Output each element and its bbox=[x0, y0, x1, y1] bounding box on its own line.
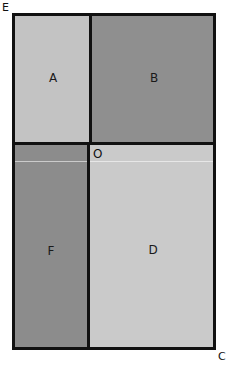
scan-artifact-line bbox=[15, 161, 213, 162]
region-a-label: A bbox=[49, 71, 57, 85]
corner-label-e: E bbox=[2, 1, 9, 14]
region-b: B bbox=[90, 16, 213, 144]
region-b-label: B bbox=[150, 71, 158, 85]
center-label-o: O bbox=[93, 147, 102, 161]
region-d: D bbox=[89, 144, 213, 347]
outer-rectangle: A B F D O bbox=[12, 13, 216, 350]
corner-label-c: C bbox=[218, 350, 226, 363]
vertical-divider-top bbox=[89, 16, 92, 145]
region-f-label: F bbox=[48, 244, 55, 258]
horizontal-divider bbox=[15, 142, 213, 145]
region-d-label: D bbox=[148, 243, 157, 257]
vertical-divider-bottom bbox=[87, 144, 90, 347]
region-f: F bbox=[15, 144, 89, 347]
region-a: A bbox=[15, 16, 90, 144]
